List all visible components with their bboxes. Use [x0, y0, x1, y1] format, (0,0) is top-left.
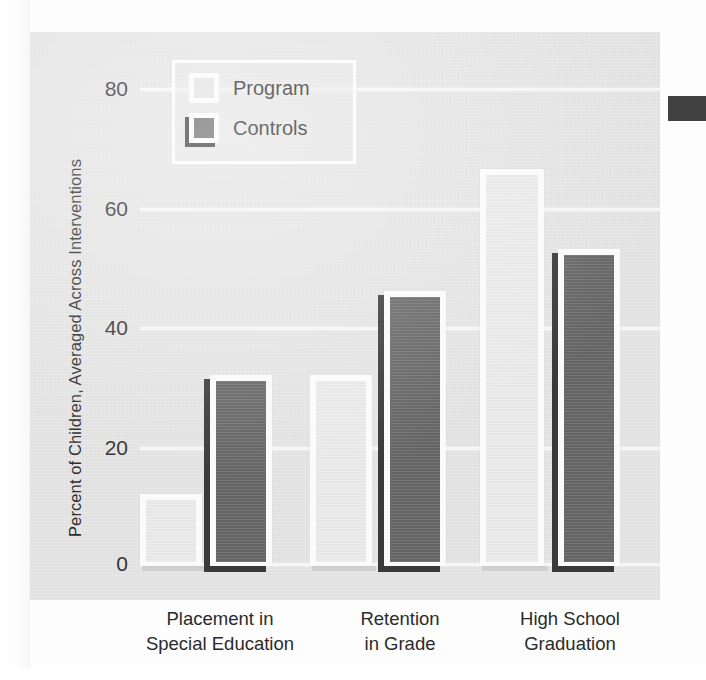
- bar-shadow-bottom: [552, 565, 614, 572]
- x-axis-category-labels: Placement in Special Education Retention…: [140, 606, 660, 666]
- page-left-edge: [0, 0, 30, 680]
- page-bottom-edge: [0, 668, 706, 680]
- category-label-line-1: High School: [480, 606, 660, 631]
- bar-group-high-school-graduation: [480, 88, 660, 566]
- legend-label-controls: Controls: [233, 117, 307, 140]
- bar-controls-placement-in-special-education[interactable]: [210, 375, 272, 566]
- category-label-retention-in-grade: Retention in Grade: [320, 606, 480, 656]
- y-tick-label-60: 60: [105, 197, 128, 221]
- legend: Program Controls: [172, 60, 356, 164]
- bar-fill: [216, 381, 266, 562]
- category-label-line-2: Graduation: [480, 631, 660, 656]
- bar-fill: [486, 175, 538, 562]
- category-label-placement-in-special-education: Placement in Special Education: [110, 606, 330, 656]
- bar-program-placement-in-special-education[interactable]: [140, 494, 202, 566]
- bar-shadow-bottom: [378, 565, 440, 572]
- bar-controls-retention-in-grade[interactable]: [384, 291, 446, 566]
- bar-controls-high-school-graduation[interactable]: [558, 249, 620, 566]
- category-label-line-1: Placement in: [110, 606, 330, 631]
- y-tick-label-0: 0: [116, 552, 128, 576]
- dark-square-swatch-icon: [189, 113, 219, 143]
- bar-shadow: [312, 566, 376, 571]
- legend-item-program[interactable]: Program: [189, 73, 310, 103]
- category-label-high-school-graduation: High School Graduation: [480, 606, 660, 656]
- category-label-line-2: in Grade: [320, 631, 480, 656]
- bar-shadow: [482, 566, 548, 571]
- y-axis-title: Percent of Children, Averaged Across Int…: [64, 64, 86, 632]
- category-label-line-2: Special Education: [110, 631, 330, 656]
- bar-fill: [146, 500, 196, 562]
- bar-program-high-school-graduation[interactable]: [480, 169, 544, 566]
- light-square-swatch-icon: [189, 73, 219, 103]
- bar-fill: [564, 255, 614, 562]
- bar-shadow-bottom: [204, 565, 266, 572]
- bar-shadow: [142, 566, 206, 571]
- y-tick-label-40: 40: [105, 316, 128, 340]
- bar-program-retention-in-grade[interactable]: [310, 375, 372, 566]
- bar-fill: [316, 381, 366, 562]
- scan-artifact-block: [668, 96, 706, 121]
- legend-item-controls[interactable]: Controls: [189, 113, 307, 143]
- category-label-line-1: Retention: [320, 606, 480, 631]
- bar-fill: [390, 297, 440, 562]
- chart-panel: Percent of Children, Averaged Across Int…: [30, 32, 660, 600]
- legend-label-program: Program: [233, 77, 310, 100]
- y-tick-label-80: 80: [105, 77, 128, 101]
- y-tick-label-20: 20: [105, 436, 128, 460]
- scanned-page: Percent of Children, Averaged Across Int…: [0, 0, 706, 680]
